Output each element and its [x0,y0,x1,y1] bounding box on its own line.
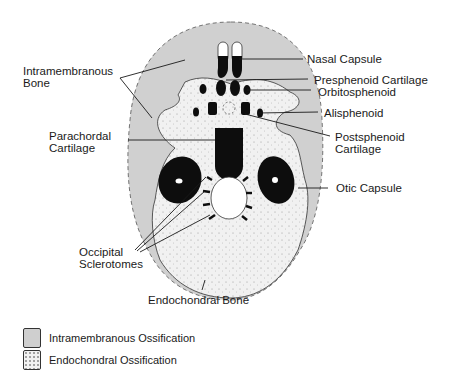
label-endochondral-bone: Endochondral Bone [148,294,249,306]
legend-label: Endochondral Ossification [49,354,177,366]
label-postsphenoid-cartilage: Postsphenoid Cartilage [335,131,405,155]
label-line: Parachordal [49,130,111,142]
alisphenoid-left [193,108,199,117]
label-orbitosphenoid: Orbitosphenoid [318,86,396,98]
orbitosphenoid-left [200,84,207,94]
label-otic-capsule: Otic Capsule [336,182,402,194]
label-line: Cartilage [49,142,111,154]
label-line: Postsphenoid [335,131,405,143]
label-alisphenoid: Alisphenoid [324,107,383,119]
label-line: Cartilage [335,143,405,155]
label-intramembranous-bone: Intramembranous Bone [23,65,113,89]
legend-item-endochondral: Endochondral Ossification [23,350,177,370]
label-line: Occipital [79,246,143,258]
label-line: Bone [23,77,113,89]
label-nasal-capsule: Nasal Capsule [307,53,382,65]
legend-item-intramembranous: Intramembranous Ossification [23,328,195,348]
legend-label: Intramembranous Ossification [49,332,195,344]
foramen-magnum [211,177,247,219]
parachordal-cartilage [215,128,243,180]
postsphenoid-right [241,102,250,115]
label-parachordal-cartilage: Parachordal Cartilage [49,130,111,154]
label-occipital-sclerotomes: Occipital Sclerotomes [79,246,143,270]
label-presphenoid-cartilage: Presphenoid Cartilage [314,74,428,86]
postsphenoid-left [208,102,217,115]
legend-swatch-stippled [23,350,41,370]
presphenoid-left [216,80,226,96]
legend-swatch-gray [23,328,41,348]
label-line: Intramembranous [23,65,113,77]
label-line: Sclerotomes [79,258,143,270]
